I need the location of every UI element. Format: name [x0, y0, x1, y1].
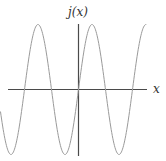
y-axis-label: j(x) [65, 5, 88, 19]
chart: x j(x) [0, 0, 166, 161]
x-axis-label: x [153, 82, 160, 96]
